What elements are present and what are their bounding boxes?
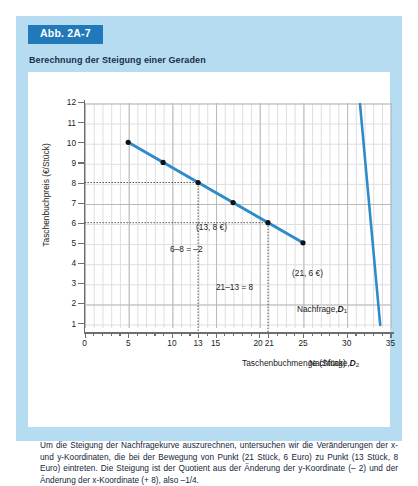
x-tick-17 <box>233 333 234 336</box>
y-label-9: 9 <box>50 158 76 168</box>
x-tick-11 <box>181 333 182 336</box>
x-tick-7 <box>146 333 147 336</box>
x-tick-26 <box>312 333 313 336</box>
y-tick-1 <box>78 323 84 324</box>
x-label-30: 30 <box>332 338 362 348</box>
figure-title: Berechnung der Steigung einer Geraden <box>29 55 206 65</box>
x-tick-24 <box>294 333 295 336</box>
x-tick-29 <box>338 333 339 336</box>
chart-panel: 12 11 10 9 8 7 6 5 4 3 2 1 <box>28 72 390 427</box>
annotation-point-13-8: (13, 8 €) <box>196 222 227 232</box>
y-label-1: 1 <box>50 319 76 329</box>
y-label-5: 5 <box>50 238 76 248</box>
figure-caption: Um die Steigung der Nachfragekurve auszu… <box>40 440 398 486</box>
y-label-3: 3 <box>50 278 76 288</box>
x-label-15: 15 <box>201 338 231 348</box>
x-label-35: 35 <box>375 338 405 348</box>
x-tick-18 <box>242 333 243 336</box>
x-tick-16 <box>224 333 225 336</box>
y-label-11: 11 <box>50 118 76 128</box>
x-tick-3 <box>111 333 112 336</box>
y-label-2: 2 <box>50 298 76 308</box>
annotation-delta-y: 6–8 = –2 <box>170 244 203 254</box>
x-label-5: 5 <box>113 338 143 348</box>
series-label-d1-sub: 1 <box>344 308 347 314</box>
y-tick-7 <box>78 203 84 204</box>
y-tick-2 <box>78 303 84 304</box>
chart-plot: 12 11 10 9 8 7 6 5 4 3 2 1 <box>28 72 390 427</box>
y-label-6: 6 <box>50 218 76 228</box>
y-label-10: 10 <box>50 138 76 148</box>
x-tick-31 <box>355 333 356 336</box>
x-tick-32 <box>364 333 365 336</box>
y-tick-11 <box>78 122 84 123</box>
y-label-7: 7 <box>50 198 76 208</box>
y-tick-3 <box>78 283 84 284</box>
series-label-d2: Nachfrage,D2 <box>309 358 359 368</box>
x-tick-8 <box>154 333 155 336</box>
x-label-25: 25 <box>288 338 318 348</box>
y-tick-10 <box>78 142 84 143</box>
x-tick-27 <box>321 333 322 336</box>
x-tick-12 <box>189 333 190 336</box>
x-label-0: 0 <box>70 338 100 348</box>
y-tick-8 <box>78 183 84 184</box>
x-tick-1 <box>93 333 94 336</box>
y-tick-9 <box>78 162 84 163</box>
series-label-d2-sub: 2 <box>356 362 359 368</box>
x-tick-4 <box>119 333 120 336</box>
x-label-21: 21 <box>254 338 284 348</box>
y-tick-6 <box>78 223 84 224</box>
y-axis-line <box>84 100 86 333</box>
x-tick-6 <box>137 333 138 336</box>
y-label-12: 12 <box>50 97 76 107</box>
x-tick-9 <box>163 333 164 336</box>
x-tick-28 <box>329 333 330 336</box>
figure-card: Abb. 2A-7 Berechnung der Steigung einer … <box>16 16 402 441</box>
x-tick-19 <box>251 333 252 336</box>
y-label-8: 8 <box>50 178 76 188</box>
y-tick-12 <box>78 102 84 103</box>
x-tick-33 <box>373 333 374 336</box>
y-label-4: 4 <box>50 258 76 268</box>
x-tick-2 <box>102 333 103 336</box>
figure-badge: Abb. 2A-7 <box>28 25 103 44</box>
annotation-point-21-6: (21, 6 €) <box>292 268 323 278</box>
series-label-d1: Nachfrage,D1 <box>297 304 347 314</box>
series-label-d2-text: Nachfrage, <box>309 358 350 368</box>
y-axis-title: Taschenbuchpreis (€/Stück) <box>41 105 51 285</box>
x-tick-22 <box>277 333 278 336</box>
y-tick-4 <box>78 263 84 264</box>
series-label-d1-text: Nachfrage, <box>297 304 338 314</box>
y-tick-5 <box>78 243 84 244</box>
x-tick-34 <box>382 333 383 336</box>
x-tick-14 <box>207 333 208 336</box>
annotation-delta-x: 21–13 = 8 <box>216 282 253 292</box>
x-tick-23 <box>286 333 287 336</box>
grid-major <box>85 103 392 328</box>
plot-grid-area <box>85 103 392 328</box>
